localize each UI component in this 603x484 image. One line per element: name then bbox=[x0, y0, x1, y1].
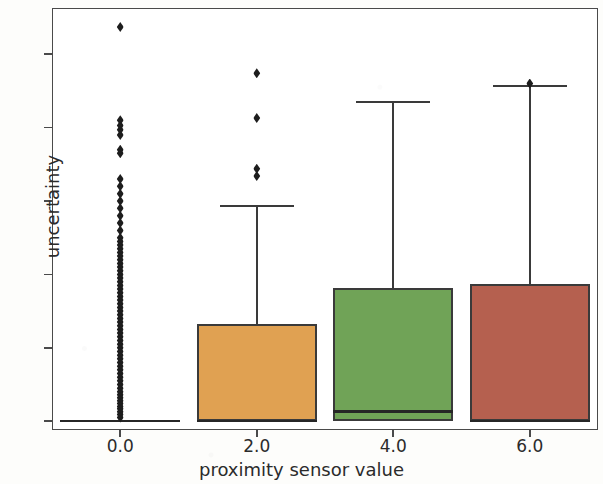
y-tick-0 bbox=[44, 420, 52, 422]
boxplot-figure: 012345 0.02.04.06.0 uncertainty proximit… bbox=[0, 0, 603, 484]
whisker-upper-2.0 bbox=[256, 206, 258, 323]
y-tick-4 bbox=[44, 127, 52, 129]
y-axis-label: uncertainty bbox=[42, 137, 63, 277]
whisker-upper-4.0 bbox=[392, 102, 394, 288]
whisker-cap-upper-2.0 bbox=[220, 205, 294, 207]
y-tick-1 bbox=[44, 347, 52, 349]
x-tick-label-2.0: 2.0 bbox=[243, 436, 270, 456]
x-axis-label: proximity sensor value bbox=[0, 459, 603, 480]
median-line-2.0 bbox=[197, 420, 317, 422]
box-4.0 bbox=[333, 288, 453, 422]
box-6.0 bbox=[470, 284, 590, 421]
x-tick-label-4.0: 4.0 bbox=[380, 436, 407, 456]
y-tick-5 bbox=[44, 53, 52, 55]
x-tick-label-0.0: 0.0 bbox=[107, 436, 134, 456]
box-2.0 bbox=[197, 324, 317, 422]
whisker-upper-6.0 bbox=[529, 86, 531, 284]
median-line-6.0 bbox=[470, 420, 590, 422]
whisker-cap-upper-4.0 bbox=[356, 101, 430, 103]
x-tick-label-6.0: 6.0 bbox=[516, 436, 543, 456]
median-line-4.0 bbox=[333, 410, 453, 412]
